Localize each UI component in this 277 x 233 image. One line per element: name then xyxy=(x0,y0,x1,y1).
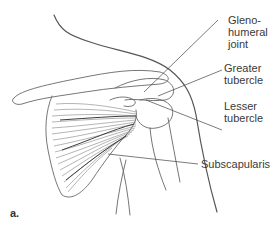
thorax-line xyxy=(120,158,130,215)
label-lesser-tubercle: Lesser tubercle xyxy=(224,100,263,124)
label-line: Greater xyxy=(224,62,263,74)
label-line: humeral xyxy=(228,26,268,38)
label-greater-tubercle: Greater tubercle xyxy=(224,62,263,86)
scapula-outline xyxy=(46,96,137,197)
label-line: tubercle xyxy=(224,74,263,86)
leader-lesser-tubercle xyxy=(146,100,222,130)
leader-greater-tubercle xyxy=(158,70,222,96)
label-line: Subscapularis xyxy=(201,158,270,170)
humerus-shaft-right xyxy=(168,118,180,182)
label-line: Gleno- xyxy=(228,14,268,26)
coracoid xyxy=(110,97,135,107)
thorax-line-2 xyxy=(116,160,126,214)
label-line: joint xyxy=(228,38,268,50)
label-line: tubercle xyxy=(224,112,263,124)
label-subscapularis: Subscapularis xyxy=(201,158,270,170)
label-line: Lesser xyxy=(224,100,263,112)
panel-label: a. xyxy=(10,207,19,219)
label-glenohumeral-joint: Gleno- humeral joint xyxy=(228,14,268,50)
